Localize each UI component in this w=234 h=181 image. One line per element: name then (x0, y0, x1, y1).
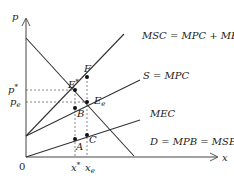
x-star-label: x* (71, 161, 81, 173)
c-label: C (89, 134, 97, 145)
supply-label: S = MPC (143, 70, 190, 81)
mec-label: MEC (149, 108, 176, 119)
p-e-label: pe (10, 96, 21, 109)
demand-curve (26, 38, 134, 156)
externality-diagram: p x 0 MSC = MPC + MEC S = MPC MEC D = MP… (0, 0, 234, 181)
b-label: B (76, 108, 84, 119)
p-star-label: p* (8, 83, 18, 95)
x-axis (26, 153, 218, 161)
f-label: F (83, 63, 92, 74)
e-e-label: Ee (93, 95, 105, 108)
x-e-label: xe (85, 162, 95, 175)
x-axis-label: x (222, 152, 228, 163)
point-e-e (85, 100, 89, 104)
demand-label: D = MPB = MSB (149, 136, 234, 147)
origin-label: 0 (19, 161, 25, 172)
y-axis-label: p (12, 11, 19, 22)
point-f (85, 75, 89, 79)
e-star-label: E* (67, 78, 79, 90)
y-axis (22, 18, 30, 157)
a-label: A (75, 141, 83, 152)
msc-label: MSC = MPC + MEC (141, 30, 234, 41)
